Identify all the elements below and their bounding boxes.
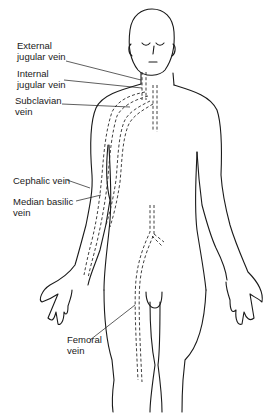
head-outline [129, 9, 174, 75]
leader-cephalic [67, 180, 90, 188]
neck-right [173, 73, 174, 85]
nose [153, 46, 154, 54]
left-eye [142, 43, 150, 45]
cephalic-vein-a [106, 101, 150, 225]
iliac-branch [152, 234, 164, 246]
label-median-basilic-vein: Median basilic vein [13, 196, 73, 218]
right-shoulder-arm [174, 85, 262, 324]
leader-subclavian [62, 104, 130, 107]
leader-median-basilic [76, 195, 101, 201]
leader-internal-jugular [64, 80, 142, 88]
torso-right-side [195, 152, 206, 290]
right-eye [156, 43, 164, 45]
femoral-vein-b [139, 205, 154, 382]
vein-anatomy-diagram: External jugular vein Internal jugular v… [0, 0, 274, 417]
right-leg-inner [158, 302, 162, 412]
label-internal-jugular-vein: Internal jugular vein [17, 68, 66, 90]
label-cephalic-vein: Cephalic vein [13, 175, 70, 186]
groin [146, 292, 162, 308]
label-femoral-vein: Femoral vein [67, 334, 102, 356]
femoral-vein-a [135, 205, 150, 380]
left-leg-inner [150, 302, 155, 412]
cephalic-vein-b [110, 104, 153, 227]
leader-external-jugular [66, 61, 141, 80]
label-subclavian-vein: Subclavian vein [15, 95, 61, 117]
right-leg-outer [182, 290, 206, 412]
left-leg-outer [104, 290, 114, 412]
subclavian-vein-b [88, 96, 148, 278]
left-ear [129, 44, 132, 56]
label-external-jugular-vein: External jugular vein [17, 40, 66, 62]
